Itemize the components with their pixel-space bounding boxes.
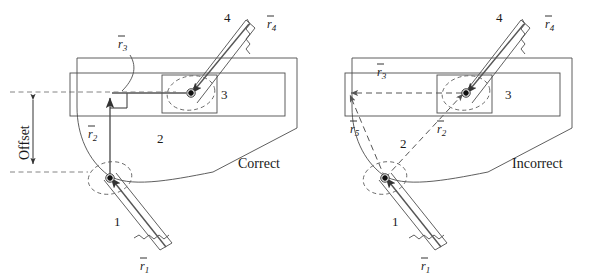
vector-r4-right — [467, 24, 524, 93]
link-1-break-hatch — [134, 235, 169, 239]
joint-3 — [187, 89, 195, 97]
vector-r1 — [111, 178, 166, 247]
svg-text:r3: r3 — [377, 65, 387, 81]
offset-label: Offset — [17, 125, 32, 160]
joint-1 — [106, 174, 114, 182]
link-number-1-right: 1 — [392, 214, 399, 229]
vector-label-r2: r2 — [88, 126, 98, 143]
vector-label-r5-right: r5 — [350, 121, 360, 138]
right-angle-marker — [110, 93, 127, 108]
svg-text:r5: r5 — [350, 122, 360, 138]
link-number-3: 3 — [221, 87, 228, 102]
vector-label-r4: r4 — [267, 16, 277, 33]
caption-correct: Correct — [238, 156, 280, 171]
link-4-right — [463, 20, 530, 103]
joint-3-right — [462, 89, 470, 97]
svg-text:r2: r2 — [88, 127, 98, 143]
mechanism-diagram: Offset — [0, 0, 601, 279]
svg-text:r4: r4 — [267, 17, 277, 33]
svg-text:r1: r1 — [140, 259, 149, 275]
svg-text:r1: r1 — [421, 259, 430, 275]
panel-incorrect: 1 2 3 4 r1 r2 r3 r4 r5 — [345, 10, 572, 275]
vector-label-r3: r3 — [118, 36, 128, 53]
vector-r2-right — [385, 94, 463, 178]
svg-text:r3: r3 — [118, 37, 128, 53]
body-3-slot-right — [345, 73, 560, 116]
link-number-4-right: 4 — [496, 10, 503, 25]
vector-r1-right — [386, 178, 441, 247]
panel-correct: Offset — [10, 10, 297, 275]
link-number-4: 4 — [224, 10, 231, 25]
joint-1-right — [381, 174, 389, 182]
link-1-break-hatch-right — [409, 235, 444, 239]
vector-label-r3-right: r3 — [377, 64, 387, 81]
vector-label-r4-right: r4 — [545, 16, 555, 33]
vector-label-r1-right: r1 — [421, 258, 430, 275]
svg-text:r2: r2 — [437, 122, 447, 138]
vector-r4 — [192, 24, 249, 93]
link-number-1: 1 — [114, 214, 121, 229]
link-number-2-right: 2 — [400, 136, 407, 151]
body-3-slot — [70, 73, 285, 116]
svg-text:r4: r4 — [545, 17, 555, 33]
figure-container: Offset — [0, 0, 601, 279]
vector-label-r1: r1 — [140, 258, 149, 275]
caption-incorrect: Incorrect — [512, 156, 563, 171]
link-number-3-right: 3 — [505, 87, 512, 102]
vector-label-r2-right: r2 — [437, 121, 447, 138]
link-number-2: 2 — [157, 131, 164, 146]
